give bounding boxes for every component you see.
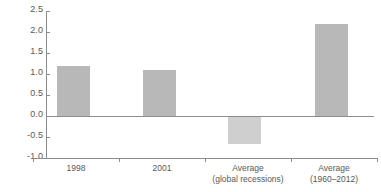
y-tick-label: 1.0 [30, 67, 43, 77]
y-tick-label: 2.0 [30, 25, 43, 35]
y-tick-label: -1.0 [27, 151, 43, 161]
bar-average-global-recessions [228, 117, 261, 144]
bar-chart: 2.5 2.0 1.5 1.0 0.5 0.0 -0.5 -1.0 [0, 0, 381, 192]
x-tick-mark [205, 158, 206, 162]
y-tick-mark [46, 53, 50, 54]
x-label-line: 2001 [119, 163, 205, 174]
y-tick-label: 0.0 [30, 109, 43, 119]
x-tick-mark [119, 158, 120, 162]
x-label-average-global-recessions: Average (global recessions) [205, 163, 291, 184]
x-label-average-1960-2012: Average (1960–2012) [291, 163, 377, 184]
x-label-line: (global recessions) [205, 174, 291, 185]
x-tick-mark [377, 158, 378, 162]
x-label-2001: 2001 [119, 163, 205, 174]
x-label-line: (1960–2012) [291, 174, 377, 185]
bar-2001 [143, 70, 176, 116]
zero-line [46, 116, 374, 117]
x-tick-mark [291, 158, 292, 162]
y-tick-mark [46, 137, 50, 138]
y-tick-label: 0.5 [30, 88, 43, 98]
y-tick-mark [46, 32, 50, 33]
y-tick-mark [46, 11, 50, 12]
x-tick-mark [33, 158, 34, 162]
bar-1998 [57, 66, 90, 116]
x-label-line: Average [291, 163, 377, 174]
x-label-line: 1998 [33, 163, 119, 174]
y-tick-label: 1.5 [30, 46, 43, 56]
x-label-line: Average [205, 163, 291, 174]
x-label-1998: 1998 [33, 163, 119, 174]
y-tick-label: -0.5 [27, 130, 43, 140]
y-tick-label: 2.5 [30, 4, 43, 14]
bar-average-1960-2012 [315, 24, 348, 116]
y-tick-mark [46, 95, 50, 96]
y-tick-mark [46, 74, 50, 75]
